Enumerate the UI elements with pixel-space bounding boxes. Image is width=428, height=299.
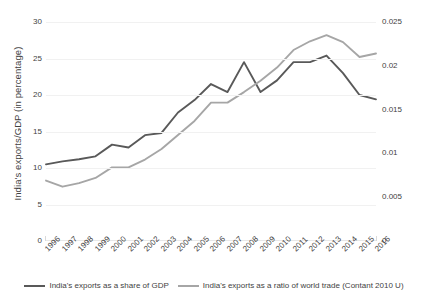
x-axis-tick-label: 2012 xyxy=(307,234,326,253)
x-axis-tick-label: 2004 xyxy=(175,234,194,253)
legend-label: India's exports as a share of GDP xyxy=(49,281,168,290)
x-axis-tick-label: 2013 xyxy=(324,234,343,253)
x-axis-tick-label: 2014 xyxy=(340,234,359,253)
legend-color-swatch xyxy=(178,285,199,287)
x-axis-tick-label: 2005 xyxy=(192,234,211,253)
x-axis-tick-label: 2000 xyxy=(109,234,128,253)
x-axis-tick-label: 1996 xyxy=(43,234,62,253)
line-chart: India's exports/GDP (in percentage) Rati… xyxy=(0,0,428,299)
legend-item[interactable]: India's exports as a share of GDP xyxy=(24,281,168,290)
legend-label: India's exports as a ratio of world trad… xyxy=(203,281,404,290)
x-axis-tick-label: 2016 xyxy=(373,234,392,253)
x-axis-tick-label: 2009 xyxy=(258,234,277,253)
x-axis-tick-label: 2002 xyxy=(142,234,161,253)
x-axis-tick-label: 1999 xyxy=(93,234,112,253)
x-axis-ticks: 1996199719981999200020012002200320042005… xyxy=(0,0,428,299)
x-axis-tick-label: 2015 xyxy=(357,234,376,253)
x-axis-tick-label: 2011 xyxy=(291,235,310,254)
x-axis-tick-label: 1997 xyxy=(60,234,79,253)
x-axis-tick-label: 2010 xyxy=(274,234,293,253)
x-axis-tick-label: 1998 xyxy=(76,234,95,253)
legend-color-swatch xyxy=(24,285,45,287)
x-axis-tick-label: 2003 xyxy=(159,234,178,253)
x-axis-tick-label: 2007 xyxy=(225,234,244,253)
x-axis-tick-label: 2006 xyxy=(208,234,227,253)
chart-legend: India's exports as a share of GDPIndia's… xyxy=(0,281,428,290)
x-axis-tick-label: 2001 xyxy=(126,234,145,253)
x-axis-tick-label: 2008 xyxy=(241,234,260,253)
legend-item[interactable]: India's exports as a ratio of world trad… xyxy=(178,281,404,290)
